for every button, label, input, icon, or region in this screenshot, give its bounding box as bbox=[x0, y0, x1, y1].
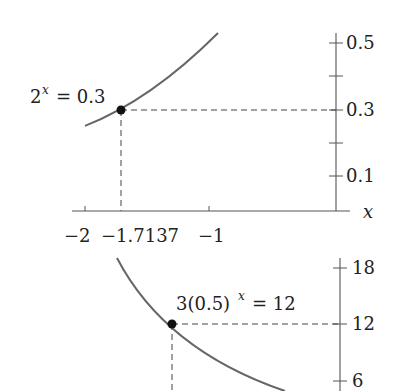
top-y-label-0.3: 0.3 bbox=[346, 99, 375, 120]
top-x-label-neg1: −1 bbox=[198, 225, 225, 246]
top-chart: 0.5 0.3 0.1 x −2 −1.7137 −1 2 x = 0.3 bbox=[30, 32, 375, 246]
top-annotation-base: 2 bbox=[30, 86, 41, 107]
top-y-label-0.1: 0.1 bbox=[346, 165, 375, 186]
top-x-axis-label: x bbox=[363, 201, 373, 222]
top-annotation-rhs: = 0.3 bbox=[56, 86, 105, 107]
top-curve bbox=[85, 33, 218, 126]
top-y-label-0.5: 0.5 bbox=[346, 32, 375, 53]
bottom-curve bbox=[117, 258, 285, 391]
bottom-y-label-12: 12 bbox=[352, 313, 375, 334]
chart-canvas: 0.5 0.3 0.1 x −2 −1.7137 −1 2 x = 0.3 18… bbox=[0, 0, 399, 391]
bottom-y-label-6: 6 bbox=[352, 370, 363, 391]
top-annotation-exponent: x bbox=[42, 83, 49, 97]
bottom-annotation-exponent: x bbox=[238, 289, 245, 303]
top-point bbox=[117, 106, 126, 115]
bottom-annotation-rhs: = 12 bbox=[252, 293, 296, 314]
top-x-label-neg2: −2 bbox=[64, 225, 91, 246]
bottom-chart: 18 12 6 3(0.5) x = 12 bbox=[117, 257, 375, 391]
bottom-annotation-base: 3(0.5) bbox=[176, 293, 230, 314]
bottom-point bbox=[168, 320, 177, 329]
top-x-label-neg1.7137: −1.7137 bbox=[101, 225, 179, 246]
bottom-y-label-18: 18 bbox=[352, 257, 375, 278]
